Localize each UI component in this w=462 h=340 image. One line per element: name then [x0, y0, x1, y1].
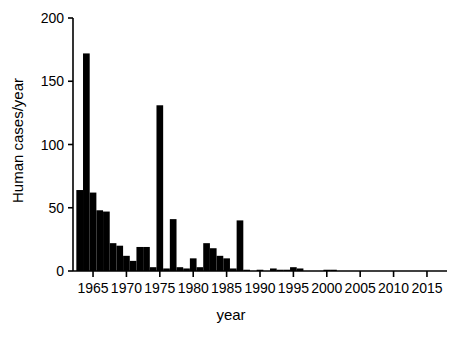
bar	[123, 256, 130, 271]
x-tick-label: 1985	[211, 280, 242, 296]
bar	[116, 246, 123, 271]
x-tick-label: 2015	[411, 280, 442, 296]
bar	[130, 261, 137, 271]
bar	[110, 243, 117, 271]
bar	[223, 258, 230, 271]
bar	[156, 105, 163, 271]
bar	[103, 212, 110, 271]
x-axis-title-text: year	[216, 306, 245, 323]
x-tick-label: 1980	[178, 280, 209, 296]
x-tick-label: 1995	[278, 280, 309, 296]
bar-series	[76, 53, 336, 271]
bar	[237, 220, 244, 271]
bar	[170, 219, 177, 271]
x-axis-title: year	[0, 306, 462, 323]
bar	[136, 247, 143, 271]
y-tick-label: 50	[48, 200, 64, 216]
x-axis-ticks: 1965197019751980198519901995200020052010…	[77, 271, 442, 296]
x-tick-label: 1965	[77, 280, 108, 296]
bar	[203, 243, 210, 271]
bar	[76, 190, 83, 271]
bar	[190, 258, 197, 271]
x-tick-label: 2010	[378, 280, 409, 296]
bar	[90, 193, 97, 271]
y-tick-label: 150	[41, 73, 65, 89]
x-tick-label: 1990	[244, 280, 275, 296]
bar	[96, 210, 103, 271]
chart-figure: Human cases/year 05010015020019651970197…	[0, 0, 462, 340]
bar-chart-plot: 0501001502001965197019751980198519901995…	[0, 0, 462, 340]
bar	[143, 247, 150, 271]
y-tick-label: 0	[56, 263, 64, 279]
y-tick-label: 200	[41, 10, 65, 26]
x-tick-label: 1970	[111, 280, 142, 296]
y-tick-label: 100	[41, 137, 65, 153]
bar	[83, 53, 90, 271]
x-tick-label: 1975	[144, 280, 175, 296]
x-tick-label: 2005	[345, 280, 376, 296]
x-tick-label: 2000	[311, 280, 342, 296]
bar	[210, 248, 217, 271]
bar	[217, 256, 224, 271]
y-axis-ticks: 050100150200	[41, 10, 73, 279]
